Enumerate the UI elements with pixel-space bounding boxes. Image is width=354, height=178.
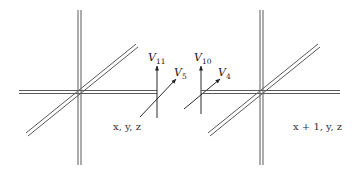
v4-label: V4	[218, 66, 231, 81]
right-node-label: x + 1, y, z	[293, 121, 342, 132]
v5-arrow	[140, 79, 176, 117]
left-node-label: x, y, z	[113, 121, 141, 132]
left-vertical-double-line	[78, 10, 81, 165]
right-horizontal-double-line	[201, 91, 340, 94]
left-node-axes	[19, 10, 157, 165]
v10-v4-vector-axes: V10 V4	[184, 51, 231, 114]
lattice-node-diagram: V11 V5 V10 V4 x, y, z x + 1, y, z	[0, 0, 354, 178]
v10-label: V10	[194, 51, 212, 66]
v5-label: V5	[174, 66, 187, 81]
right-node-axes	[201, 10, 340, 165]
right-vertical-double-line	[260, 10, 263, 165]
v11-label: V11	[148, 51, 166, 66]
v11-v5-vector-axes: V11 V5	[140, 51, 187, 118]
left-horizontal-double-line	[19, 91, 157, 94]
